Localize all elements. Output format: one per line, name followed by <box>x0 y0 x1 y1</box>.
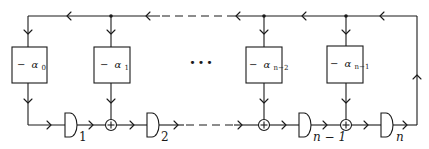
coef-sign: − <box>17 59 25 70</box>
delay-label: n − 1 <box>313 130 346 144</box>
coef-symbol: α <box>115 59 122 70</box>
delay-element-icon <box>65 113 77 137</box>
coef-symbol: α <box>32 59 39 70</box>
adder-2 <box>259 120 270 131</box>
coefficient-column-0: − α 0 <box>12 16 65 129</box>
delay-element-icon <box>147 113 159 137</box>
coef-sign: − <box>100 59 108 70</box>
coefficient-column-n-1: − α n−1 <box>327 16 369 120</box>
delay-element-icon <box>299 113 311 137</box>
coef-sign: − <box>330 58 338 69</box>
adder-1 <box>106 120 117 131</box>
coef-subscript: 0 <box>42 64 46 72</box>
coef-symbol: α <box>345 58 352 69</box>
coef-subscript: 1 <box>125 64 129 72</box>
delay-element-2: 2 <box>147 113 169 144</box>
coef-symbol: α <box>264 59 271 70</box>
delay-element-icon <box>381 113 393 137</box>
delay-element-1: 1 <box>65 113 87 144</box>
coef-subscript: n−1 <box>355 63 370 71</box>
coefficient-column-n-2: − α n−2 <box>246 16 288 120</box>
delay-element-n-1: n − 1 <box>299 113 346 144</box>
coef-sign: − <box>249 59 257 70</box>
delay-label: 1 <box>79 130 87 144</box>
delay-label: n <box>396 130 404 144</box>
coef-subscript: n−2 <box>274 64 289 72</box>
ellipsis: ••• <box>189 56 214 69</box>
adder-3 <box>341 120 352 131</box>
shift-register-diagram: − α 0 1 − α 1 2 <box>0 0 429 149</box>
coefficient-column-1: − α 1 <box>94 16 130 120</box>
delay-label: 2 <box>161 130 169 144</box>
delay-element-n: n <box>381 113 404 144</box>
